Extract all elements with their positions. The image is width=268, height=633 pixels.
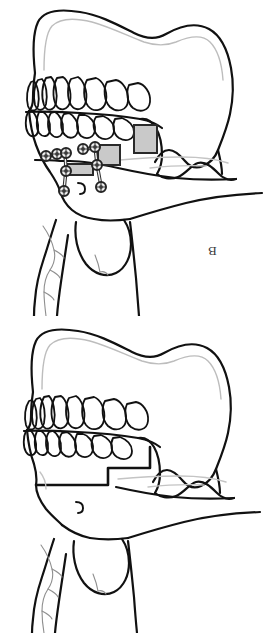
panel-label-b: B bbox=[208, 245, 217, 258]
panel-a: A bbox=[0, 317, 268, 633]
panel-b-illustration bbox=[0, 0, 268, 316]
bone-screw bbox=[92, 160, 102, 170]
bone-screw bbox=[61, 166, 71, 176]
panel-a-illustration bbox=[0, 317, 268, 633]
bone-screw bbox=[59, 186, 69, 196]
bone-screw bbox=[41, 151, 51, 161]
figure-root: B bbox=[0, 0, 268, 633]
bone-screw bbox=[61, 148, 71, 158]
bone-screw bbox=[90, 142, 100, 152]
graft-block-posterior bbox=[134, 125, 157, 153]
panel-b: B bbox=[0, 0, 268, 316]
bone-screw bbox=[96, 182, 106, 192]
bone-screw bbox=[78, 144, 88, 154]
